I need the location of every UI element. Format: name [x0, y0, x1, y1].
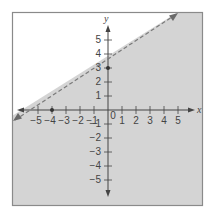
svg-text:−1: −1 [90, 118, 102, 129]
svg-text:2: 2 [133, 115, 139, 126]
svg-text:−2: −2 [90, 132, 102, 143]
svg-text:5: 5 [175, 115, 181, 126]
x-intercept-point [50, 108, 54, 112]
svg-text:−2: −2 [72, 115, 84, 126]
svg-text:2: 2 [95, 76, 101, 87]
y-intercept-point [106, 66, 110, 70]
svg-text:−4: −4 [44, 115, 56, 126]
svg-text:5: 5 [95, 34, 101, 45]
y-axis-label: y [103, 13, 109, 24]
svg-text:−3: −3 [90, 146, 102, 157]
y-tick-labels-negative: −1 −2 −3 −4 −5 [90, 118, 102, 185]
svg-text:4: 4 [95, 48, 101, 59]
svg-text:−3: −3 [58, 115, 70, 126]
y-tick-labels-positive: 5 4 3 2 1 [95, 34, 101, 101]
x-tick-labels-negative: −5 −4 −3 −2 −1 [30, 115, 98, 126]
svg-text:3: 3 [95, 62, 101, 73]
coordinate-graph: x y −5 −4 −3 −2 −1 0 1 2 3 4 5 5 4 3 [0, 0, 215, 219]
svg-text:−5: −5 [90, 174, 102, 185]
svg-text:1: 1 [95, 90, 101, 101]
svg-text:3: 3 [147, 115, 153, 126]
origin-label: 0 [110, 110, 116, 121]
svg-text:−5: −5 [30, 115, 42, 126]
svg-text:4: 4 [161, 115, 167, 126]
x-axis-label: x [196, 104, 202, 115]
svg-text:−4: −4 [90, 160, 102, 171]
svg-text:1: 1 [119, 115, 125, 126]
